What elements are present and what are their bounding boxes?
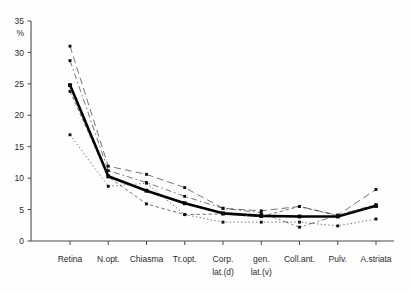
x-axis-labels: RetinaN.opt.ChiasmaTr.opt.Corp.lat.(d)ge… <box>58 254 392 277</box>
x-tick-label: Retina <box>58 254 83 264</box>
series-line-case-2 <box>70 61 376 228</box>
x-tick-label: Tr.opt. <box>173 254 197 264</box>
x-tick-label: Chiasma <box>130 254 164 264</box>
x-tick-label: gen. <box>253 254 270 264</box>
y-tick-label: 15 <box>15 142 25 152</box>
data-point <box>68 83 72 87</box>
x-tick-label: Coll.ant. <box>284 254 315 264</box>
series-line-mean <box>70 85 376 216</box>
data-point <box>375 188 378 191</box>
x-tick-label-secondary: lat.(v) <box>251 267 272 277</box>
data-point <box>336 224 339 227</box>
data-point <box>69 133 72 136</box>
line-chart: 05101520253035 RetinaN.opt.ChiasmaTr.opt… <box>0 0 412 293</box>
data-point <box>145 189 149 193</box>
y-tick-label: 25 <box>15 79 25 89</box>
data-point <box>222 213 225 216</box>
y-tick-label: 20 <box>15 110 25 120</box>
x-tick-label: Pulv. <box>329 254 347 264</box>
data-point <box>145 182 148 185</box>
data-point <box>298 226 301 229</box>
data-point <box>69 59 72 62</box>
x-tick-label: Corp. <box>213 254 234 264</box>
x-tick-label: N.opt. <box>97 254 120 264</box>
y-tick-label: 30 <box>15 48 25 58</box>
data-point <box>336 214 339 217</box>
data-point <box>260 221 263 224</box>
x-tick-label-secondary: lat.(d) <box>212 267 234 277</box>
data-point <box>183 195 186 198</box>
data-point <box>107 175 110 178</box>
chart-container: 05101520253035 RetinaN.opt.ChiasmaTr.opt… <box>0 0 412 293</box>
data-point <box>145 202 148 205</box>
data-points-group <box>68 45 378 229</box>
y-tick-label: 35 <box>15 16 25 26</box>
data-point <box>107 165 110 168</box>
data-point <box>69 90 72 93</box>
data-point <box>298 221 301 224</box>
data-point <box>183 213 186 216</box>
data-point <box>375 205 378 208</box>
chart-axes <box>31 21 394 241</box>
series-group <box>70 46 376 227</box>
y-tick-label: 5 <box>19 205 24 215</box>
y-axis-labels: 05101520253035 <box>15 16 25 246</box>
data-point <box>375 218 378 221</box>
data-point <box>260 215 263 218</box>
data-point <box>298 205 301 208</box>
data-point <box>145 173 148 176</box>
series-line-case-3 <box>70 91 376 216</box>
data-point <box>222 207 225 210</box>
series-line-case-1 <box>70 46 376 215</box>
data-point <box>69 45 72 48</box>
data-point <box>222 221 225 224</box>
y-tick-label: 10 <box>15 173 25 183</box>
data-point <box>107 185 110 188</box>
data-point <box>183 201 187 205</box>
data-point <box>183 186 186 189</box>
data-point <box>107 169 110 172</box>
data-point <box>260 211 263 214</box>
x-tick-label: A.striata <box>360 254 391 264</box>
y-axis-unit-label: % <box>16 28 24 38</box>
x-axis-ticks <box>70 241 376 245</box>
y-tick-label: 0 <box>19 236 24 246</box>
data-point <box>298 215 302 219</box>
